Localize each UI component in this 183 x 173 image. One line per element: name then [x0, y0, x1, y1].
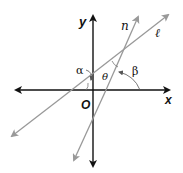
line-n-label: n: [121, 19, 129, 33]
line-l-label: ℓ: [155, 26, 160, 40]
line-l-lower: [12, 99, 60, 136]
y-axis-label: y: [78, 14, 87, 29]
diagram-canvas: y x O n ℓ α θ β: [0, 0, 183, 173]
alpha-arc: [86, 83, 88, 90]
alpha-label: α: [76, 64, 84, 77]
x-axis-label: x: [164, 93, 173, 107]
theta-label: θ: [102, 71, 108, 82]
origin-label: O: [81, 98, 91, 112]
beta-label: β: [132, 65, 138, 78]
line-l: [60, 15, 168, 99]
